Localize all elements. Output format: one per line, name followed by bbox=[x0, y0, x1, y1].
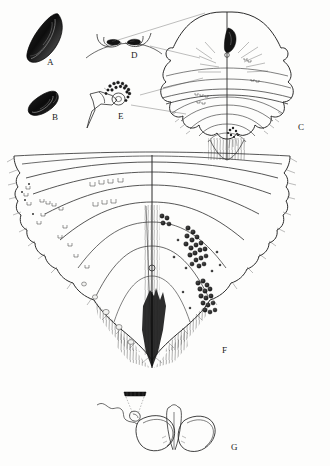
panel-d-detail bbox=[86, 33, 162, 58]
panel-f-body bbox=[7, 152, 297, 368]
panel-c-body bbox=[161, 12, 294, 160]
panel-label-a: A bbox=[47, 58, 54, 67]
panel-e-detail bbox=[87, 81, 131, 128]
panel-a-specimen bbox=[27, 14, 62, 63]
figure-canvas bbox=[0, 0, 330, 466]
inset-bar-detail bbox=[124, 392, 146, 414]
panel-g-genitalia bbox=[97, 392, 215, 451]
panel-label-d: D bbox=[131, 51, 138, 60]
bracket-setae-group bbox=[24, 178, 123, 268]
figure-plate: A B C D E F G bbox=[0, 0, 330, 466]
leader-lines bbox=[118, 13, 205, 114]
panel-label-c: C bbox=[298, 123, 304, 132]
panel-label-e: E bbox=[118, 112, 124, 121]
panel-label-f: F bbox=[222, 346, 227, 355]
panel-label-g: G bbox=[231, 443, 238, 452]
panel-label-b: B bbox=[52, 113, 58, 122]
